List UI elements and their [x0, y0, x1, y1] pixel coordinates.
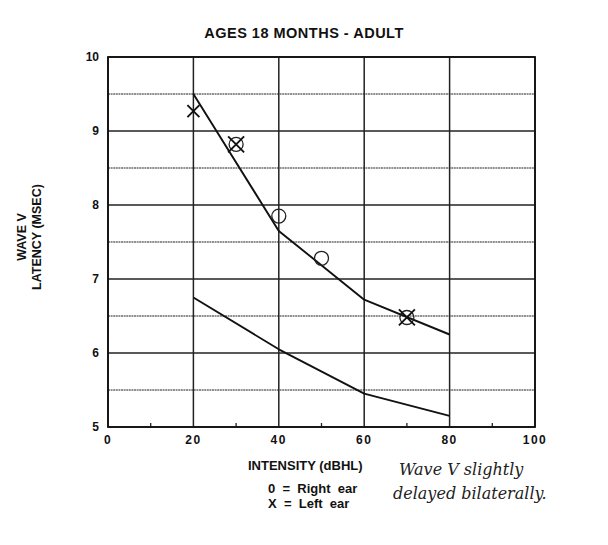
x-tick-label: 20 — [185, 433, 201, 447]
x-tick-label: 40 — [271, 433, 287, 447]
y-tick-label: 8 — [92, 198, 99, 212]
x-tick-label: 80 — [441, 433, 457, 447]
legend-right-ear: 0 = Right ear — [268, 481, 357, 496]
lower-limit-line — [193, 298, 449, 416]
x-tick-label: 100 — [523, 433, 548, 447]
note-line2: delayed bilaterally. — [393, 482, 547, 506]
right-ear-marker — [315, 251, 329, 265]
y-tick-label: 5 — [92, 420, 99, 434]
x-axis-label: INTENSITY (dBHL) — [248, 458, 363, 473]
x-tick-label: 0 — [104, 433, 112, 447]
y-tick-label: 10 — [86, 50, 100, 64]
handwritten-note: Wave Ⅴ slightly delayed bilaterally. — [399, 458, 547, 506]
y-tick-label: 7 — [92, 272, 99, 286]
legend: 0 = Right ear X = Left ear — [268, 481, 357, 511]
note-line1: Wave Ⅴ slightly — [399, 458, 547, 482]
legend-left-ear: X = Left ear — [268, 496, 357, 511]
upper-limit-line — [193, 94, 449, 335]
y-tick-label: 9 — [92, 124, 99, 138]
x-tick-label: 60 — [356, 433, 372, 447]
y-tick-label: 6 — [92, 346, 99, 360]
